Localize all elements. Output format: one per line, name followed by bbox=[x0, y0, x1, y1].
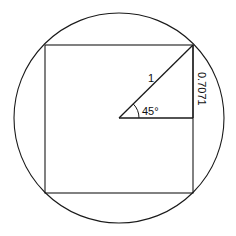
diagram-canvas: 1 45° 0.7071 bbox=[0, 0, 236, 236]
side-label: 0.7071 bbox=[196, 72, 208, 106]
angle-label: 45° bbox=[142, 105, 159, 117]
hypotenuse-label: 1 bbox=[148, 72, 154, 84]
angle-arc bbox=[133, 104, 139, 118]
